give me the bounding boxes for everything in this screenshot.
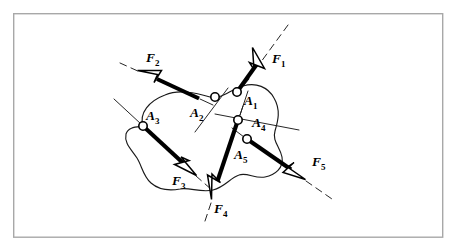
application-point-a5 [243, 135, 251, 143]
application-point-a1 [233, 88, 241, 96]
application-point-a3 [139, 122, 147, 130]
figure-frame [14, 14, 443, 238]
figure-root: F1 F2 F3 F4 F5 A1 A2 A3 [0, 0, 457, 247]
application-point-a4 [234, 116, 242, 124]
application-point-a2 [211, 93, 219, 101]
force-diagram: F1 F2 F3 F4 F5 A1 A2 A3 [0, 0, 457, 247]
